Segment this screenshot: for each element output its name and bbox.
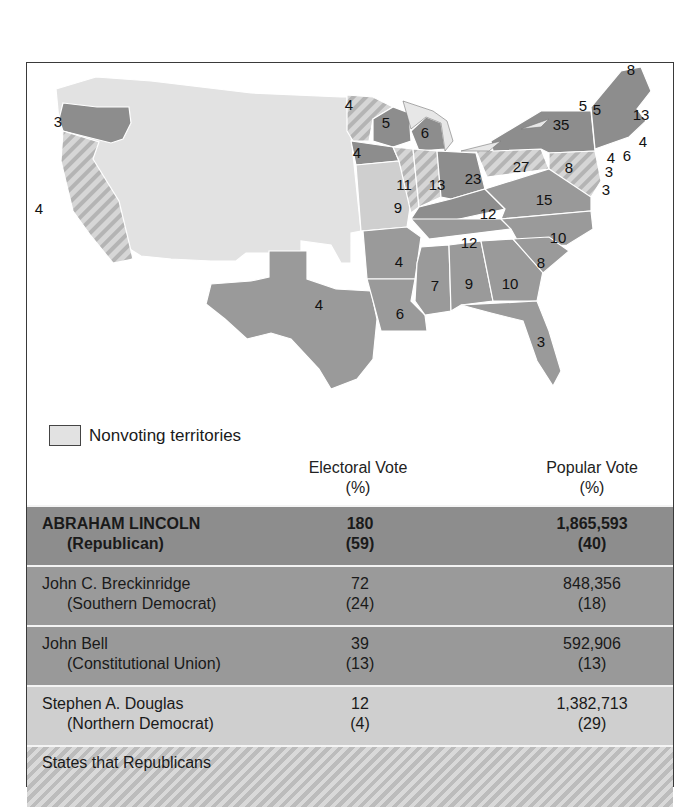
state-vote-label: 3 <box>605 163 613 180</box>
state-vote-label: 11 <box>396 176 412 193</box>
state-vote-label: 3 <box>602 181 610 198</box>
popular-vote-label: Popular Vote <box>532 458 652 478</box>
state-vote-label: 7 <box>431 277 439 294</box>
state-vote-label: 9 <box>394 199 402 216</box>
candidate-party: (Constitutional Union) <box>67 654 221 674</box>
state-vote-label: 4 <box>395 253 403 270</box>
state-vote-label: 13 <box>633 106 650 123</box>
popular-vote-unit: (%) <box>532 478 652 498</box>
candidate-name: Stephen A. Douglas <box>42 694 183 714</box>
hatched-legend-row: States that Republicans <box>27 745 673 807</box>
candidate-party: (Republican) <box>67 534 164 554</box>
nonvoting-swatch <box>49 425 81 446</box>
electoral-vote-cell: 180(59) <box>307 514 413 554</box>
hatched-legend-label: States that Republicans <box>42 753 211 773</box>
popular-vote-cell: 592,906(13) <box>537 634 647 674</box>
state-vote-label: 5 <box>593 101 601 118</box>
candidate-name: John Bell <box>42 634 108 654</box>
state-vote-label: 4 <box>345 96 353 113</box>
legend-label: Nonvoting territories <box>89 426 241 446</box>
candidate-row-breckinridge: John C. Breckinridge (Southern Democrat)… <box>27 565 673 625</box>
us-election-map: 3445641113232735558134643839121512104847… <box>27 63 673 443</box>
electoral-vote-unit: (%) <box>295 478 421 498</box>
state-vote-label: 4 <box>353 144 361 161</box>
state-vote-label: 5 <box>579 97 587 114</box>
state-vote-label: 8 <box>627 63 635 78</box>
electoral-vote-cell: 12(4) <box>307 694 413 734</box>
state-vote-label: 8 <box>565 159 573 176</box>
state-vote-label: 6 <box>421 124 429 141</box>
state-vote-label: 27 <box>513 158 530 175</box>
candidate-row-bell: John Bell (Constitutional Union) 39(13) … <box>27 625 673 685</box>
state-vote-label: 6 <box>396 305 404 322</box>
state-arkansas <box>363 227 421 279</box>
state-vote-label: 4 <box>315 296 323 313</box>
state-vote-label: 6 <box>623 147 631 164</box>
state-vote-label: 8 <box>537 254 545 271</box>
popular-vote-header: Popular Vote (%) <box>532 458 652 498</box>
state-vote-label: 13 <box>429 176 446 193</box>
state-florida <box>461 301 561 386</box>
state-vote-label: 9 <box>465 275 473 292</box>
state-vote-label: 35 <box>553 116 570 133</box>
state-vote-label: 10 <box>502 275 519 292</box>
state-vote-label: 15 <box>536 191 553 208</box>
state-new-york <box>491 111 595 153</box>
candidate-row-douglas: Stephen A. Douglas (Northern Democrat) 1… <box>27 685 673 745</box>
state-vote-label: 10 <box>550 229 567 246</box>
candidate-row-lincoln: ABRAHAM LINCOLN (Republican) 180(59) 1,8… <box>27 505 673 565</box>
map-legend: Nonvoting territories <box>49 425 241 446</box>
candidate-party: (Northern Democrat) <box>67 714 214 734</box>
candidate-name: ABRAHAM LINCOLN <box>42 514 200 534</box>
state-vote-label: 4 <box>35 200 43 217</box>
popular-vote-cell: 1,382,713(29) <box>537 694 647 734</box>
electoral-vote-cell: 72(24) <box>307 574 413 614</box>
election-map-figure: 3445641113232735558134643839121512104847… <box>26 62 674 787</box>
state-vote-label: 4 <box>639 133 647 150</box>
state-vote-label: 3 <box>54 113 62 130</box>
electoral-vote-header: Electoral Vote (%) <box>295 458 421 498</box>
state-vote-label: 12 <box>480 205 497 222</box>
popular-vote-cell: 848,356(18) <box>537 574 647 614</box>
state-vote-label: 3 <box>537 333 545 350</box>
electoral-vote-cell: 39(13) <box>307 634 413 674</box>
state-vote-label: 12 <box>461 234 478 251</box>
electoral-vote-label: Electoral Vote <box>295 458 421 478</box>
candidate-party: (Southern Democrat) <box>67 594 216 614</box>
state-texas <box>206 251 377 389</box>
candidate-name: John C. Breckinridge <box>42 574 191 594</box>
popular-vote-cell: 1,865,593(40) <box>537 514 647 554</box>
state-vote-label: 23 <box>465 170 482 187</box>
state-vote-label: 5 <box>382 114 390 131</box>
